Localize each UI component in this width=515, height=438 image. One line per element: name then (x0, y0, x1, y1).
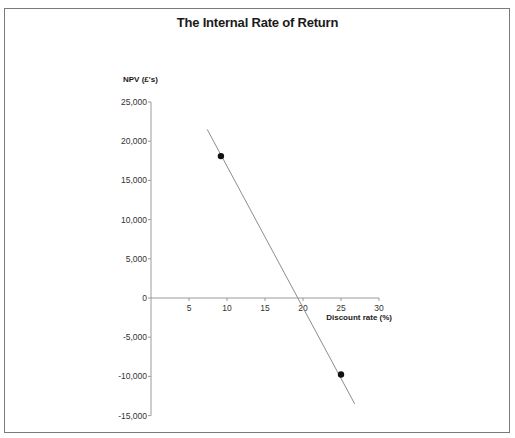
x-tick-label: 30 (374, 303, 384, 313)
y-tick-label: -10,000 (118, 371, 147, 381)
y-tick-label: 25,000 (121, 97, 147, 107)
y-tick-label: 20,000 (121, 136, 147, 146)
chart-plot: 25,00020,00015,00010,0005,0000-5,000-10,… (0, 0, 515, 438)
x-tick-label: 5 (187, 303, 192, 313)
x-tick-label: 10 (222, 303, 232, 313)
y-tick-label: -5,000 (123, 332, 147, 342)
y-tick-label: 15,000 (121, 175, 147, 185)
x-tick-label: 15 (260, 303, 270, 313)
y-tick-label: -15,000 (118, 411, 147, 421)
series-layer (207, 129, 354, 403)
y-axis-title: NPV (£'s) (123, 75, 158, 84)
npv-data-point (218, 153, 224, 159)
npv-data-point (338, 371, 344, 377)
y-tick-label: 10,000 (121, 215, 147, 225)
y-tick-label: 0 (142, 293, 147, 303)
axes: 25,00020,00015,00010,0005,0000-5,000-10,… (118, 97, 384, 421)
y-tick-label: 5,000 (126, 254, 148, 264)
x-axis-title: Discount rate (%) (326, 313, 392, 322)
npv-line (207, 129, 354, 403)
x-tick-label: 25 (336, 303, 346, 313)
